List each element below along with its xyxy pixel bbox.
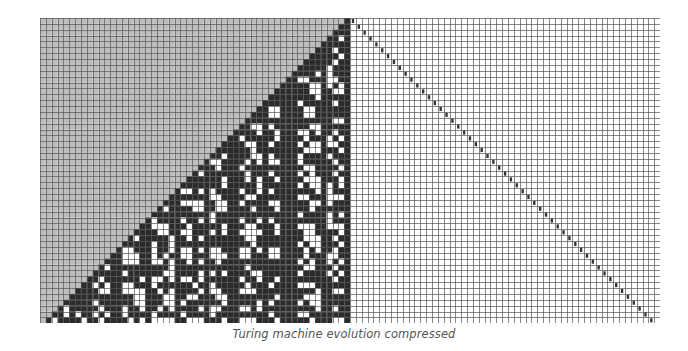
evolution-grid [40, 18, 660, 323]
figure-caption: Turing machine evolution compressed [0, 327, 688, 341]
turing-machine-figure [40, 18, 660, 323]
